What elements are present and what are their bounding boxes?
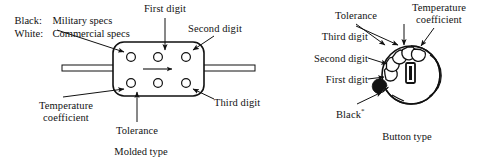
button-leader-third-digit (356, 24, 385, 45)
button-notch-6[interactable] (411, 49, 425, 61)
molded-dot-top-right[interactable] (182, 53, 191, 62)
button-leader-temperature-coefficient (421, 28, 434, 46)
button-center-slot-fill (409, 66, 412, 80)
button-leader-black (357, 92, 382, 104)
molded-leader-temperature-coefficient (63, 89, 124, 97)
molded-dot-bottom-left[interactable] (127, 79, 136, 88)
molded-dot-bottom-right[interactable] (182, 79, 191, 88)
button-leader-third-digit-b (356, 26, 398, 45)
molded-lead-left (62, 65, 116, 71)
molded-dot-top-left[interactable] (127, 53, 136, 62)
molded-leader-legend (57, 30, 124, 52)
molded-lead-right (201, 65, 255, 71)
figure-root: Black:Military specs White:Commercial sp… (0, 0, 487, 168)
molded-dot-bottom-center[interactable] (154, 79, 163, 88)
diagram-artwork (0, 0, 487, 168)
button-leader-second-digit (368, 58, 387, 64)
molded-dot-top-center[interactable] (154, 53, 163, 62)
